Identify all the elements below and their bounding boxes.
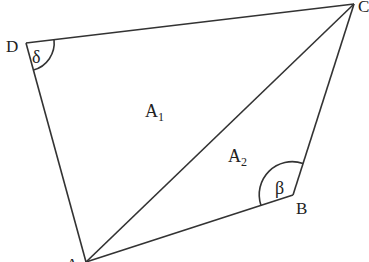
region-label-a2-sub: 2 bbox=[241, 155, 247, 169]
angle-label-delta: δ bbox=[32, 47, 40, 67]
edge-ad bbox=[26, 43, 86, 262]
vertex-label-c: C bbox=[358, 0, 369, 16]
vertex-label-d: D bbox=[6, 37, 18, 56]
region-label-a2: A2 bbox=[228, 146, 247, 169]
edge-ba bbox=[86, 195, 293, 262]
region-label-a1-sub: 1 bbox=[158, 110, 164, 124]
region-label-a1: A1 bbox=[145, 101, 164, 124]
vertex-label-b: B bbox=[296, 199, 307, 218]
quadrilateral-diagram: D C B A δ β A1 A2 bbox=[0, 0, 369, 262]
diagonal-ac bbox=[86, 4, 354, 262]
angle-label-beta: β bbox=[275, 178, 284, 198]
edge-dc bbox=[26, 4, 354, 43]
vertex-label-a: A bbox=[66, 255, 79, 262]
